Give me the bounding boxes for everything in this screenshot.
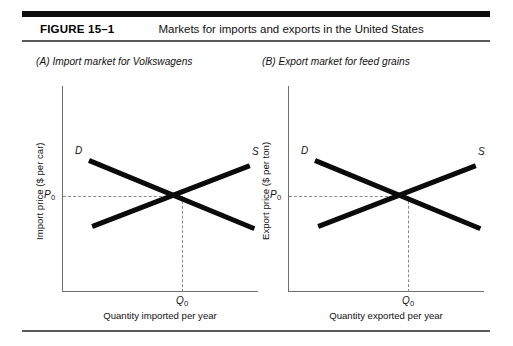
panel-b-price-tick-label: P0 xyxy=(270,189,281,200)
panel-b-y-axis xyxy=(288,86,289,292)
panel-a-y-axis xyxy=(62,86,63,292)
panel-b-x-axis xyxy=(288,291,484,292)
panel-a-plot-area: Import price ($ per car) D S P0 Q0 Quant… xyxy=(62,86,258,292)
panel-b-supply-label: S xyxy=(478,146,485,157)
panel-a-price-tick-label: P0 xyxy=(44,189,55,200)
header-rule-thick xyxy=(22,11,490,17)
panel-b-y-axis-label: Export price ($ per ton) xyxy=(260,0,271,90)
panel-a-caption: (A) Import market for Volkswagens xyxy=(36,56,192,67)
panel-b-plot-area: Export price ($ per ton) D S P0 Q0 Quant… xyxy=(288,86,484,292)
panel-import-market: (A) Import market for Volkswagens Import… xyxy=(22,56,262,326)
panel-a-demand-label: D xyxy=(75,145,82,156)
figure-header: FIGURE 15–1 Markets for imports and expo… xyxy=(40,21,424,37)
panel-b-caption: (B) Export market for feed grains xyxy=(262,56,410,67)
panel-a-x-axis-label: Quantity imported per year xyxy=(62,310,258,321)
footer-rule xyxy=(22,330,490,332)
panel-a-quantity-guide xyxy=(182,196,183,292)
panel-a-y-axis-label: Import price ($ per car) xyxy=(34,0,45,90)
panel-b-quantity-guide xyxy=(408,196,409,292)
header-rule-thin xyxy=(22,40,490,42)
panel-a-x-axis xyxy=(62,291,258,292)
panel-export-market: (B) Export market for feed grains Export… xyxy=(248,56,488,326)
panel-a-quantity-tick-label: Q0 xyxy=(176,295,188,306)
panel-b-x-axis-label: Quantity exported per year xyxy=(288,310,484,321)
figure-title: Markets for imports and exports in the U… xyxy=(158,23,423,35)
figure-number: FIGURE 15–1 xyxy=(40,23,114,35)
figure-container: FIGURE 15–1 Markets for imports and expo… xyxy=(0,0,513,346)
panel-b-demand-label: D xyxy=(301,145,308,156)
panel-b-quantity-tick-label: Q0 xyxy=(402,295,414,306)
